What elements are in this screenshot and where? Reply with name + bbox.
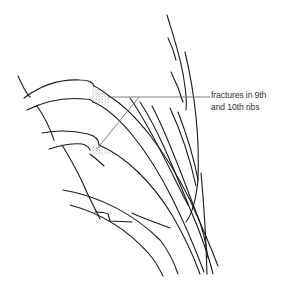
fracture-annotation-label: fractures in 9th and 10th ribs [211, 90, 266, 113]
rib-drawing [0, 0, 282, 284]
annotation-pointer [97, 97, 210, 149]
rib-10-lateral-fragment [90, 145, 200, 274]
costal-cartilages [130, 52, 213, 274]
lower-ribs [63, 188, 178, 276]
rib-10-medial-fragment [42, 131, 99, 188]
rib-fracture-diagram: fractures in 9th and 10th ribs [0, 0, 282, 284]
rib-9-medial-fragment [18, 76, 94, 140]
rib-9-lateral-fragment [93, 96, 218, 272]
annotation-line-1: fractures in 9th [211, 90, 266, 102]
thoracic-wall [167, 15, 186, 110]
annotation-line-2: and 10th ribs [211, 102, 266, 114]
